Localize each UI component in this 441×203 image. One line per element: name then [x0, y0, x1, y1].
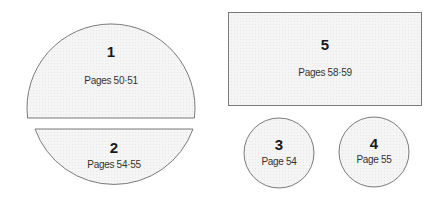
section-3-label: Page 54	[261, 156, 297, 167]
section-4: 4 Page 55	[339, 117, 409, 187]
section-5-number: 5	[321, 36, 329, 53]
section-2-number: 2	[110, 139, 118, 156]
section-5: 5 Pages 58·59	[229, 13, 422, 106]
section-4-number: 4	[370, 135, 379, 152]
section-2-shape	[35, 129, 193, 184]
section-1-number: 1	[107, 43, 115, 60]
section-5-label: Pages 58·59	[298, 67, 352, 78]
section-2: 2 Pages 54·55	[35, 129, 193, 184]
section-4-shape	[339, 117, 409, 187]
section-1-label: Pages 50·51	[84, 75, 138, 86]
section-2-label: Pages 54·55	[87, 159, 141, 170]
section-5-shape	[229, 13, 422, 106]
section-1-shape	[27, 24, 195, 118]
page-layout-diagram: 1 Pages 50·51 2 Pages 54·55 5 Pages 58·5…	[0, 0, 441, 203]
section-3-number: 3	[275, 136, 283, 153]
section-1: 1 Pages 50·51	[27, 24, 195, 118]
section-4-label: Page 55	[356, 154, 392, 165]
section-3-shape	[244, 118, 314, 188]
section-3: 3 Page 54	[244, 118, 314, 188]
